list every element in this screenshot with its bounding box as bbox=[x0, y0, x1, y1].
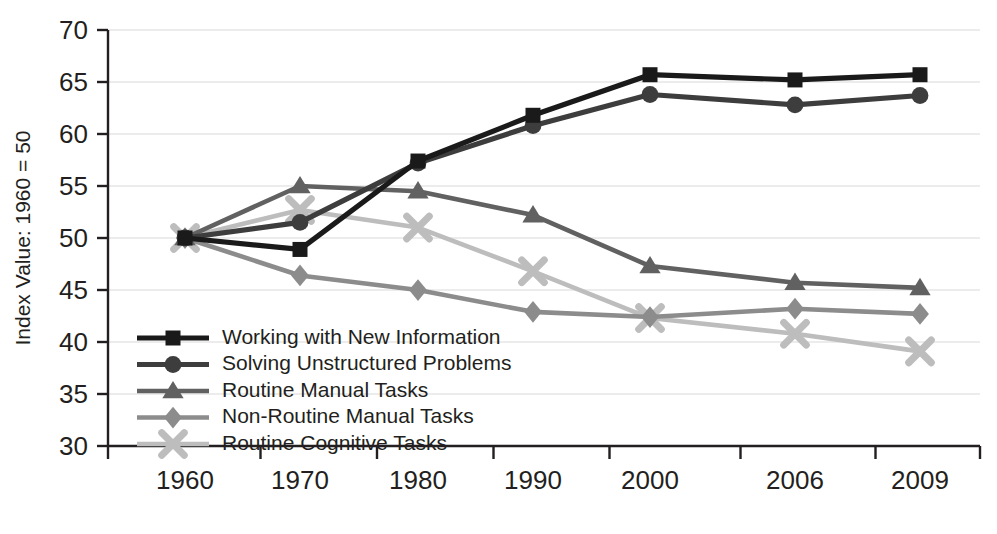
y-tick-label: 35 bbox=[59, 379, 88, 409]
chart-page: 303540455055606570 196019701980199020002… bbox=[0, 0, 997, 534]
y-tick-label: 65 bbox=[59, 67, 88, 97]
data-point-marker bbox=[409, 279, 427, 301]
legend-sample-marker bbox=[164, 407, 182, 429]
legend-item[interactable]: Routine Manual Tasks bbox=[137, 378, 428, 401]
y-tick-label: 40 bbox=[59, 327, 88, 357]
legend-label: Routine Cognitive Tasks bbox=[222, 431, 447, 454]
legend-label: Solving Unstructured Problems bbox=[222, 351, 511, 374]
y-tick-label: 45 bbox=[59, 275, 88, 305]
legend-sample-marker bbox=[166, 331, 181, 346]
x-tick-label: 2000 bbox=[621, 465, 679, 495]
y-tick-label: 60 bbox=[59, 119, 88, 149]
series-0 bbox=[178, 67, 928, 257]
x-tick-label: 1960 bbox=[156, 465, 214, 495]
y-tick-label: 70 bbox=[59, 15, 88, 45]
data-point-marker bbox=[178, 231, 193, 246]
y-tick-label: 55 bbox=[59, 171, 88, 201]
legend-item[interactable]: Solving Unstructured Problems bbox=[137, 351, 511, 374]
data-point-marker bbox=[522, 260, 545, 283]
x-axis-tick-labels: 1960197019801990200020062009 bbox=[156, 465, 949, 495]
legend-label: Routine Manual Tasks bbox=[222, 378, 428, 401]
data-point-marker bbox=[292, 214, 309, 231]
y-axis-title: Index Value: 1960 = 50 bbox=[11, 130, 34, 345]
data-point-marker bbox=[787, 96, 804, 113]
data-point-marker bbox=[911, 303, 929, 325]
y-axis-tick-labels: 303540455055606570 bbox=[59, 15, 88, 461]
data-point-marker bbox=[293, 242, 308, 257]
data-point-marker bbox=[912, 87, 929, 104]
y-tick-label: 30 bbox=[59, 431, 88, 461]
x-tick-label: 2009 bbox=[891, 465, 949, 495]
data-series bbox=[174, 67, 932, 362]
data-point-marker bbox=[411, 154, 426, 169]
legend-label: Non-Routine Manual Tasks bbox=[222, 404, 474, 427]
line-chart: 303540455055606570 196019701980199020002… bbox=[0, 0, 997, 534]
legend-item[interactable]: Routine Cognitive Tasks bbox=[137, 431, 447, 456]
data-point-marker bbox=[524, 301, 542, 323]
x-tick-label: 1990 bbox=[504, 465, 562, 495]
data-point-marker bbox=[643, 67, 658, 82]
y-tick-label: 50 bbox=[59, 223, 88, 253]
chart-legend: Working with New InformationSolving Unst… bbox=[137, 325, 511, 456]
legend-sample-marker bbox=[165, 356, 182, 373]
data-point-marker bbox=[913, 67, 928, 82]
x-tick-label: 1970 bbox=[271, 465, 329, 495]
data-point-marker bbox=[642, 86, 659, 103]
x-tick-label: 2006 bbox=[766, 465, 824, 495]
legend-item[interactable]: Non-Routine Manual Tasks bbox=[137, 404, 474, 428]
data-point-marker bbox=[786, 298, 804, 320]
data-point-marker bbox=[788, 72, 803, 87]
legend-item[interactable]: Working with New Information bbox=[137, 325, 501, 348]
y-axis-title-text: Index Value: 1960 = 50 bbox=[11, 130, 34, 345]
legend-label: Working with New Information bbox=[222, 325, 501, 348]
x-tick-label: 1980 bbox=[389, 465, 447, 495]
data-point-marker bbox=[291, 265, 309, 287]
data-point-marker bbox=[526, 108, 541, 123]
y-axis bbox=[97, 30, 108, 446]
